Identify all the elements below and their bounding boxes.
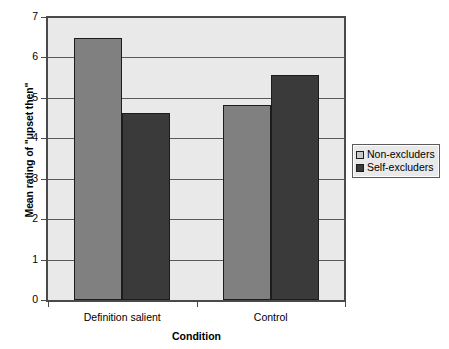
bar (74, 38, 122, 300)
legend-item-self-excluders: Self-excluders (356, 161, 435, 174)
plot-border-right (344, 16, 346, 301)
y-axis-tick (41, 179, 47, 180)
y-axis-tick-label: 4 (18, 132, 38, 143)
bar-chart: Mean rating of "upset then" 01234567 Def… (0, 0, 449, 349)
y-axis-tick (41, 17, 47, 18)
x-axis-tick (48, 301, 49, 307)
x-axis-category-label: Control (196, 311, 346, 323)
bar (271, 75, 319, 300)
y-axis-tick (41, 219, 47, 220)
legend: Non-excluders Self-excluders (352, 144, 440, 178)
y-axis-tick (41, 138, 47, 139)
x-axis-title: Condition (0, 330, 393, 342)
plot-border-top (48, 16, 346, 18)
x-axis-tick (345, 301, 346, 307)
legend-item-label: Non-excluders (367, 149, 435, 160)
legend-item-label: Self-excluders (367, 162, 434, 173)
legend-swatch-icon (356, 151, 364, 159)
y-axis-tick-label: 3 (18, 173, 38, 184)
bar (122, 113, 170, 300)
y-axis-tick-label: 1 (18, 254, 38, 265)
x-axis-tick (197, 301, 198, 307)
y-axis-tick-label: 0 (18, 294, 38, 305)
y-axis-tick-label: 2 (18, 213, 38, 224)
y-axis-tick (41, 57, 47, 58)
y-axis-tick (41, 300, 47, 301)
legend-swatch-icon (356, 164, 364, 172)
x-axis-line (46, 300, 346, 302)
bar (223, 105, 271, 300)
y-axis-tick (41, 98, 47, 99)
y-axis-tick-label: 7 (18, 11, 38, 22)
legend-item-non-excluders: Non-excluders (356, 148, 435, 161)
y-axis-tick-label: 6 (18, 51, 38, 62)
y-axis-tick-label: 5 (18, 92, 38, 103)
y-axis-tick (41, 260, 47, 261)
x-axis-category-label: Definition salient (47, 311, 197, 323)
